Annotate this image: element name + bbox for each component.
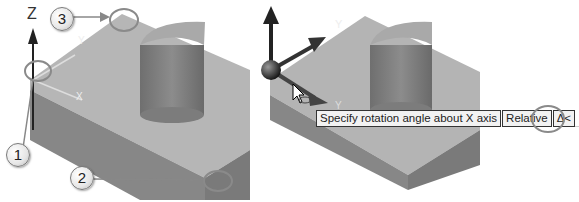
- right-viewport: Y Y: [250, 0, 579, 202]
- y-axis-label: Y: [335, 18, 342, 30]
- callout-2: 2: [70, 166, 94, 190]
- callout-1: 1: [6, 143, 30, 167]
- x-axis-label: X: [76, 91, 83, 102]
- callout-3: 3: [50, 7, 74, 31]
- callout-ring-input: [531, 105, 565, 133]
- z-axis-label: Z: [27, 5, 37, 23]
- callout-ring-1: [24, 60, 52, 82]
- gizmo-origin: [261, 60, 281, 80]
- dynamic-input-prompt: Specify rotation angle about X axis: [316, 110, 501, 127]
- left-viewport: Z Y X 1 2 3: [0, 0, 250, 202]
- callout-ring-2: [203, 170, 233, 192]
- y-axis-label: Y: [78, 35, 85, 46]
- right-model-drawing: [250, 0, 579, 202]
- callout-ring-3: [109, 8, 139, 32]
- rotation-angle-input[interactable]: -40: [575, 110, 579, 127]
- cylinder: [370, 45, 432, 110]
- cylinder: [140, 45, 204, 115]
- z-axis-arrow: [28, 28, 38, 44]
